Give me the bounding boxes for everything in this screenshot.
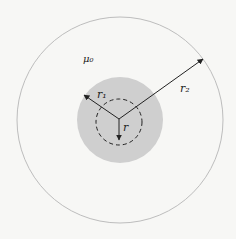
inner-conductor-disk	[77, 77, 163, 163]
r1-label: r₁	[97, 88, 107, 101]
coax-diagram: μ₀ r₁ r₂ r	[0, 0, 236, 239]
r-label: r	[123, 121, 129, 134]
mu0-label: μ₀	[83, 53, 94, 64]
r2-label: r₂	[180, 82, 190, 95]
